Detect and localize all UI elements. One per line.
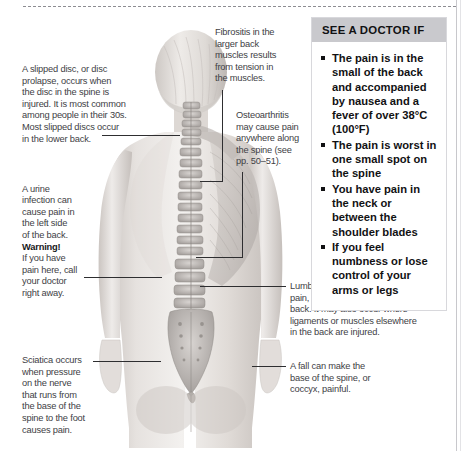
see-a-doctor-title: SEE A DOCTOR IF <box>312 18 446 42</box>
warning-label: Warning! <box>22 242 60 252</box>
see-a-doctor-item: The pain is worst in one small spot on t… <box>321 138 437 181</box>
note-coccyx: A fall can make the base of the spine, o… <box>290 361 410 396</box>
leader-coccyx <box>252 366 286 367</box>
leader-fibrositis-foot <box>200 181 223 182</box>
note-fibrositis: Fibrositis in the larger back muscles re… <box>215 27 307 85</box>
leader-osteoarthritis <box>242 172 243 258</box>
note-urine-infection: A urine infection can cause pain in the … <box>22 172 96 311</box>
leader-osteoarthritis-foot <box>196 257 243 258</box>
page-edge-line <box>456 0 457 451</box>
note-urine-text-before: A urine infection can cause pain in the … <box>22 184 96 242</box>
leader-fibrositis <box>222 90 223 182</box>
see-a-doctor-item: The pain is in the small of the back and… <box>321 51 437 137</box>
note-sciatica: Sciatica occurs when pressure on the ner… <box>22 355 112 436</box>
see-a-doctor-box: SEE A DOCTOR IF The pain is in the small… <box>311 17 447 311</box>
book-page: A slipped disc, or disc prolapse, occurs… <box>0 0 461 451</box>
leader-lumbago <box>200 286 286 287</box>
dotted-rule-top <box>22 5 456 8</box>
note-urine-text-after: If you have pain here, call your doctor … <box>22 253 96 299</box>
see-a-doctor-item: If you feel numbness or lose control of … <box>321 240 437 297</box>
see-a-doctor-item: You have pain in the neck or between the… <box>321 182 437 239</box>
see-a-doctor-list: The pain is in the small of the back and… <box>312 42 446 310</box>
note-slipped-disc: A slipped disc, or disc prolapse, occurs… <box>22 64 150 145</box>
